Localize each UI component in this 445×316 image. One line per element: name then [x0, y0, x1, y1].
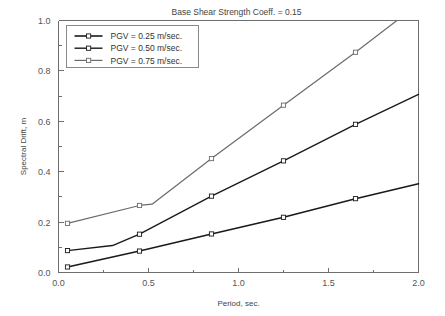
series-marker [281, 103, 285, 107]
series-marker [281, 159, 285, 163]
series-marker [137, 232, 141, 236]
chart-canvas: 0.00.20.40.60.81.00.00.51.01.52.0Base Sh… [0, 0, 445, 316]
y-tick-label: 0.6 [38, 117, 51, 127]
y-tick-label: 1.0 [38, 16, 51, 26]
x-tick-label: 1.0 [232, 278, 245, 288]
x-tick-label: 0.5 [142, 278, 155, 288]
x-tick-label: 0.0 [52, 278, 65, 288]
legend-label-1: PGV = 0.50 m/sec. [111, 43, 183, 53]
legend-label-2: PGV = 0.75 m/sec. [111, 56, 183, 66]
series-marker [65, 248, 69, 252]
chart-title: Base Shear Strength Coeff. = 0.15 [171, 7, 301, 17]
y-axis-label: Spectral Drift, m [19, 117, 28, 175]
series-marker [281, 215, 285, 219]
legend-label-0: PGV = 0.25 m/sec. [111, 31, 183, 41]
legend-marker-2 [87, 58, 91, 62]
series-marker [137, 203, 141, 207]
y-tick-label: 0.0 [38, 268, 51, 278]
legend-marker-1 [87, 46, 91, 50]
chart-figure: 0.00.20.40.60.81.00.00.51.01.52.0Base Sh… [0, 0, 445, 316]
series-marker [137, 249, 141, 253]
series-marker [65, 221, 69, 225]
y-tick-label: 0.2 [38, 218, 51, 228]
series-marker [353, 122, 357, 126]
legend-marker-0 [87, 34, 91, 38]
series-marker [353, 197, 357, 201]
y-tick-label: 0.8 [38, 66, 51, 76]
y-tick-label: 0.4 [38, 167, 51, 177]
x-axis-label: Period, sec. [217, 299, 259, 308]
series-marker [209, 194, 213, 198]
series-marker [65, 265, 69, 269]
series-line-0 [68, 184, 419, 267]
x-tick-label: 2.0 [412, 278, 425, 288]
series-marker [209, 157, 213, 161]
series-marker [353, 50, 357, 54]
x-tick-label: 1.5 [322, 278, 335, 288]
series-marker [209, 232, 213, 236]
